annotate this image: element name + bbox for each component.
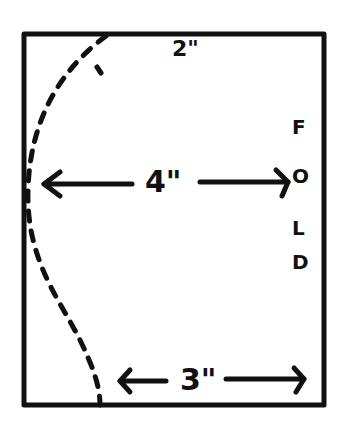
- fold-letter-f: F: [292, 117, 306, 137]
- fold-letter-l: L: [292, 218, 305, 238]
- dashed-cut-line: [28, 36, 106, 405]
- fold-letter-o: O: [292, 166, 309, 186]
- middle-width-label: 4": [145, 167, 182, 197]
- fold-letter-d: D: [292, 252, 309, 272]
- pattern-border: [24, 34, 324, 405]
- bottom-width-label: 3": [180, 365, 217, 395]
- dash-mark: [97, 67, 101, 73]
- top-width-label: 2": [172, 38, 199, 60]
